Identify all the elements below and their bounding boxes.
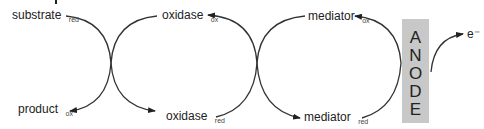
oxidase-red-label: oxidase red bbox=[166, 106, 225, 124]
oxidase-ox-to-red-arrow bbox=[111, 16, 157, 111]
anode-letter-e: E bbox=[410, 100, 421, 119]
anode-letter-d: D bbox=[409, 82, 421, 101]
electron-out-arrow bbox=[431, 34, 463, 72]
oxidase-red-to-ox-arrow bbox=[208, 15, 257, 117]
mediator-red-label: mediator red bbox=[304, 107, 368, 125]
mediator-ox-label: mediator ox bbox=[308, 6, 370, 24]
substrate-label: substrate red bbox=[12, 5, 79, 23]
crop-artifact bbox=[55, 0, 57, 4]
anode-letter-a: A bbox=[410, 28, 422, 47]
mediator-red-to-ox-arrow bbox=[355, 16, 401, 118]
product-label: product ox bbox=[18, 99, 73, 117]
oxidase-ox-label: oxidase ox bbox=[162, 5, 219, 23]
electron-label: e⁻ bbox=[467, 27, 480, 41]
redox-cycle-diagram: A N O D E e⁻ substrate red product ox ox… bbox=[0, 0, 484, 129]
substrate-to-product-arrow bbox=[66, 16, 111, 111]
anode-letter-o: O bbox=[409, 64, 422, 83]
mediator-ox-to-red-arrow bbox=[257, 16, 305, 118]
anode-letter-n: N bbox=[409, 46, 421, 65]
